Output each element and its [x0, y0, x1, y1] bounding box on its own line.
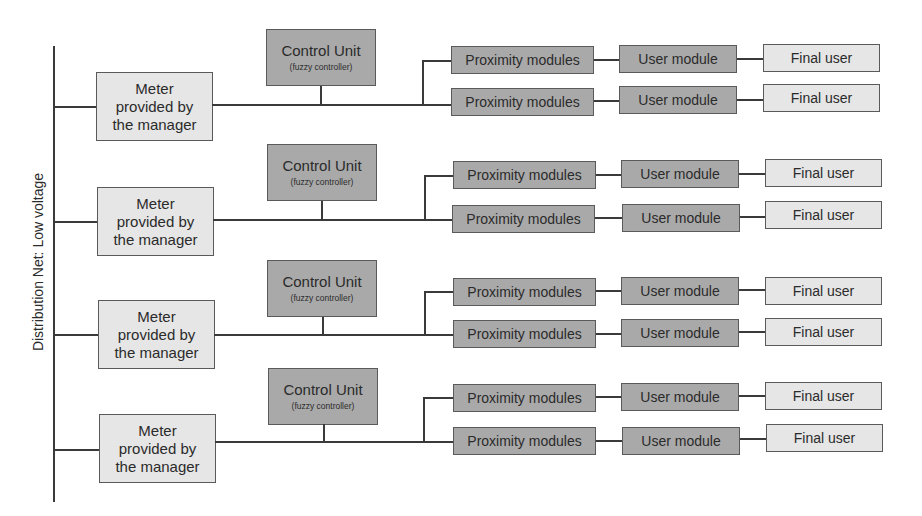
user-module-label: User module	[640, 325, 719, 342]
control-unit-box: Control Unit (fuzzy controller)	[268, 368, 378, 425]
control-unit-stem	[322, 317, 324, 335]
meter-to-branch-line	[213, 219, 425, 221]
proximity-module-box: Proximity modules	[453, 278, 596, 306]
control-unit-stem	[320, 86, 322, 105]
user-to-final-line	[739, 331, 765, 333]
branch-split-vertical	[424, 291, 426, 336]
user-module-label: User module	[640, 283, 719, 300]
user-module-box: User module	[622, 427, 740, 455]
branch-top-connector	[424, 175, 453, 177]
final-user-label: Final user	[793, 324, 854, 341]
control-unit-title: Control Unit	[282, 273, 361, 291]
meter-box: Meter provided by the manager	[96, 72, 213, 141]
user-to-final-line	[737, 58, 763, 60]
control-unit-stem	[321, 201, 323, 220]
branch-bottom-connector	[422, 104, 451, 106]
control-unit-subtitle: (fuzzy controller)	[290, 62, 353, 72]
meter-label-line-3: the manager	[115, 458, 199, 476]
final-user-box: Final user	[763, 44, 880, 72]
meter-label-line-1: Meter	[137, 308, 175, 326]
meter-to-branch-line	[215, 441, 425, 443]
control-unit-box: Control Unit (fuzzy controller)	[267, 144, 377, 201]
meter-box: Meter provided by the manager	[98, 300, 215, 369]
meter-label-line-1: Meter	[138, 422, 176, 440]
user-module-label: User module	[638, 92, 717, 109]
branch-bottom-connector	[423, 441, 453, 443]
user-module-label: User module	[638, 51, 717, 68]
meter-label-line-3: the manager	[113, 231, 197, 249]
control-unit-box: Control Unit (fuzzy controller)	[267, 260, 377, 317]
meter-to-branch-line	[214, 334, 425, 336]
bus-to-meter-line	[54, 221, 97, 223]
proximity-module-box: Proximity modules	[453, 427, 596, 455]
proximity-label: Proximity modules	[467, 390, 581, 407]
proximity-module-box: Proximity modules	[451, 46, 594, 74]
user-to-final-line	[740, 216, 765, 218]
control-unit-title: Control Unit	[282, 157, 361, 175]
branch-top-connector	[424, 291, 453, 293]
final-user-label: Final user	[793, 388, 854, 405]
user-to-final-line	[740, 438, 766, 440]
control-unit-title: Control Unit	[283, 381, 362, 399]
distribution-diagram: Distribution Net: Low voltage Meter prov…	[0, 0, 922, 516]
control-unit-subtitle: (fuzzy controller)	[291, 177, 354, 187]
user-module-label: User module	[641, 210, 720, 227]
user-module-box: User module	[621, 383, 739, 411]
control-unit-title: Control Unit	[281, 42, 360, 60]
proximity-label: Proximity modules	[465, 52, 579, 69]
meter-label-line-3: the manager	[112, 116, 196, 134]
user-to-final-line	[739, 173, 765, 175]
user-to-final-line	[739, 395, 765, 397]
proximity-module-box: Proximity modules	[453, 384, 596, 412]
proximity-module-box: Proximity modules	[453, 161, 596, 189]
proximity-label: Proximity modules	[467, 433, 581, 450]
control-unit-subtitle: (fuzzy controller)	[291, 293, 354, 303]
user-to-final-line	[739, 289, 765, 291]
final-user-label: Final user	[794, 430, 855, 447]
user-module-box: User module	[621, 319, 739, 347]
user-module-label: User module	[640, 166, 719, 183]
meter-label-line-3: the manager	[114, 344, 198, 362]
final-user-label: Final user	[791, 50, 852, 67]
meter-label-line-1: Meter	[136, 195, 174, 213]
user-module-box: User module	[621, 277, 739, 305]
meter-to-branch-line	[212, 104, 423, 106]
final-user-box: Final user	[765, 277, 882, 305]
prox-to-user-line	[595, 217, 622, 219]
proximity-module-box: Proximity modules	[451, 88, 594, 116]
final-user-box: Final user	[763, 84, 880, 112]
meter-box: Meter provided by the manager	[99, 414, 216, 483]
final-user-label: Final user	[793, 207, 854, 224]
final-user-box: Final user	[765, 318, 882, 346]
proximity-label: Proximity modules	[466, 211, 580, 228]
control-unit-subtitle: (fuzzy controller)	[292, 401, 355, 411]
meter-label-line-2: provided by	[119, 440, 197, 458]
distribution-bus-line	[53, 46, 55, 502]
control-unit-stem	[323, 424, 325, 442]
meter-box: Meter provided by the manager	[97, 187, 214, 256]
prox-to-user-line	[596, 333, 621, 335]
proximity-label: Proximity modules	[467, 167, 581, 184]
user-module-label: User module	[640, 389, 719, 406]
proximity-label: Proximity modules	[465, 94, 579, 111]
bus-to-meter-line	[54, 334, 98, 336]
control-unit-box: Control Unit (fuzzy controller)	[266, 29, 376, 86]
prox-to-user-line	[594, 100, 619, 102]
proximity-label: Proximity modules	[467, 326, 581, 343]
final-user-label: Final user	[791, 90, 852, 107]
branch-split-vertical	[422, 60, 424, 106]
branch-split-vertical	[423, 397, 425, 443]
final-user-box: Final user	[765, 159, 882, 187]
prox-to-user-line	[596, 290, 621, 292]
user-module-label: User module	[641, 433, 720, 450]
branch-top-connector	[422, 60, 451, 62]
user-module-box: User module	[619, 45, 737, 73]
user-module-box: User module	[621, 160, 739, 188]
user-to-final-line	[737, 99, 763, 101]
prox-to-user-line	[596, 396, 621, 398]
user-module-box: User module	[619, 86, 737, 114]
branch-top-connector	[423, 397, 453, 399]
proximity-label: Proximity modules	[467, 284, 581, 301]
final-user-box: Final user	[766, 424, 883, 452]
branch-bottom-connector	[424, 334, 453, 336]
